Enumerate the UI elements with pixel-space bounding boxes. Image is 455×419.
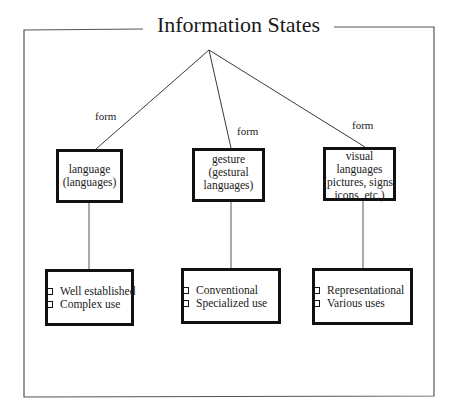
property-text: Well established xyxy=(60,285,135,298)
edge-gesture xyxy=(209,50,231,148)
properties-box-visual: Representational Various uses xyxy=(312,268,413,325)
checkbox-icon xyxy=(183,300,189,307)
property-item: Conventional xyxy=(184,284,278,297)
checkbox-icon xyxy=(183,287,189,294)
category-name-line: visual xyxy=(346,150,373,163)
checkbox-icon xyxy=(314,287,320,294)
checkbox-icon xyxy=(314,300,320,307)
checkbox-icon xyxy=(47,301,53,308)
category-name-line: language xyxy=(69,163,111,176)
edge-label-gesture: form xyxy=(237,125,258,137)
category-name-line: gesture xyxy=(212,153,245,166)
property-item: Various uses xyxy=(315,297,410,310)
property-item: Specialized use xyxy=(184,297,278,310)
category-name-line: (languages) xyxy=(63,176,117,189)
properties-box-language: Well established Complex use xyxy=(45,269,134,326)
edge-language xyxy=(96,50,209,149)
diagram-title: Information States xyxy=(143,12,334,38)
category-name-line: (pictures, signs, xyxy=(323,176,396,189)
category-name-line: languages) xyxy=(204,179,254,192)
checkbox-icon xyxy=(47,288,53,295)
property-text: Conventional xyxy=(196,284,258,297)
connector-lines xyxy=(0,0,455,419)
property-item: Well established xyxy=(48,285,131,298)
category-name-line: languages xyxy=(337,163,383,176)
category-name-line: (gestural xyxy=(208,166,248,179)
outer-frame xyxy=(24,27,434,397)
property-text: Complex use xyxy=(60,298,120,311)
category-box-language: language (languages) xyxy=(56,149,123,203)
property-item: Representational xyxy=(315,284,410,297)
property-text: Various uses xyxy=(327,297,385,310)
property-text: Representational xyxy=(327,284,404,297)
edge-label-visual: form xyxy=(352,119,373,131)
category-name-line: icons, etc.) xyxy=(334,189,384,202)
category-box-gesture: gesture (gestural languages) xyxy=(192,148,265,202)
category-box-visual: visual languages (pictures, signs, icons… xyxy=(323,147,396,201)
properties-box-gesture: Conventional Specialized use xyxy=(181,268,281,324)
edge-visual xyxy=(209,50,365,147)
property-item: Complex use xyxy=(48,298,131,311)
edge-label-language: form xyxy=(95,110,116,122)
property-text: Specialized use xyxy=(196,297,267,310)
